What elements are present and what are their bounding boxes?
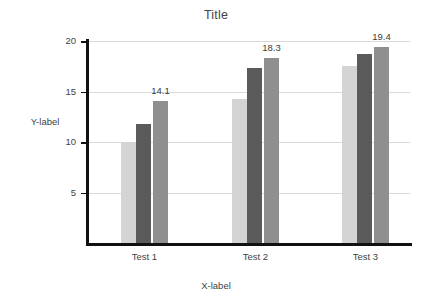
bar-test-2-series-1 bbox=[232, 99, 247, 243]
y-axis-label: Y-label bbox=[14, 116, 76, 127]
bar-test-2-series-3 bbox=[264, 58, 279, 243]
y-tick-mark-10 bbox=[81, 142, 87, 144]
bar-test-1-series-1 bbox=[121, 142, 136, 243]
value-label-19.4: 19.4 bbox=[365, 31, 399, 42]
y-tick-label-20: 20 bbox=[36, 35, 76, 46]
x-tick-label-test-2: Test 2 bbox=[216, 251, 296, 262]
bar-test-3-series-3 bbox=[374, 47, 389, 243]
bar-test-1-series-3 bbox=[153, 101, 168, 243]
value-label-14.1: 14.1 bbox=[144, 85, 178, 96]
x-tick-label-test-1: Test 1 bbox=[105, 251, 185, 262]
bar-test-3-series-2 bbox=[357, 54, 372, 243]
x-tick-label-test-3: Test 3 bbox=[326, 251, 406, 262]
x-axis-line bbox=[86, 243, 412, 246]
chart-title: Title bbox=[0, 8, 432, 22]
plot-area bbox=[88, 41, 410, 243]
bar-chart: Title Y-label X-label 5101520 14.118.319… bbox=[0, 0, 432, 303]
y-tick-mark-5 bbox=[81, 193, 87, 195]
gridline-20 bbox=[88, 41, 410, 42]
y-tick-label-15: 15 bbox=[36, 86, 76, 97]
value-label-18.3: 18.3 bbox=[255, 42, 289, 53]
bar-test-1-series-2 bbox=[136, 124, 151, 243]
y-tick-mark-20 bbox=[81, 41, 87, 43]
x-axis-label: X-label bbox=[0, 280, 432, 291]
y-tick-label-10: 10 bbox=[36, 136, 76, 147]
y-tick-mark-15 bbox=[81, 92, 87, 94]
y-tick-label-5: 5 bbox=[36, 187, 76, 198]
bar-test-2-series-2 bbox=[247, 68, 262, 243]
bar-test-3-series-1 bbox=[342, 66, 357, 243]
